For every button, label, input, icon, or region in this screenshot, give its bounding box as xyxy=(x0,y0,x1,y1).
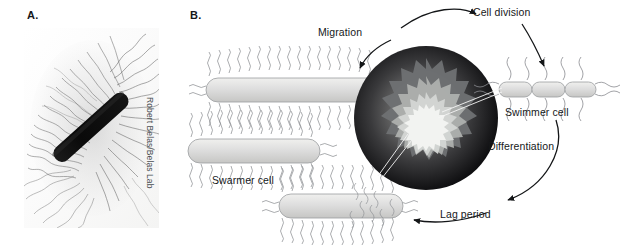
arrow-differentiation xyxy=(508,120,559,200)
figure-root: A. xyxy=(0,0,633,246)
label-lag-period: Lag period xyxy=(440,208,491,220)
label-cell-division: Cell division xyxy=(473,6,530,18)
panel-a-micrograph xyxy=(24,28,159,228)
image-credit: Robert Belas/Belas Lab xyxy=(145,97,155,229)
panel-a-label: A. xyxy=(27,9,38,21)
panel-b-cycle-diagram: Migration Cell division Swimmer cell Dif… xyxy=(186,0,633,246)
label-swarmer-cell: Swarmer cell xyxy=(212,174,274,186)
swarmer-cell-micrograph-image xyxy=(24,28,159,228)
arrow-to-cell-division xyxy=(401,9,476,28)
swarming-colony-plate xyxy=(354,46,498,190)
label-migration: Migration xyxy=(318,26,362,38)
label-differentiation: Differentiation xyxy=(488,140,554,152)
swarming-cycle-graphic xyxy=(186,0,633,246)
label-swimmer-cell: Swimmer cell xyxy=(505,106,569,118)
